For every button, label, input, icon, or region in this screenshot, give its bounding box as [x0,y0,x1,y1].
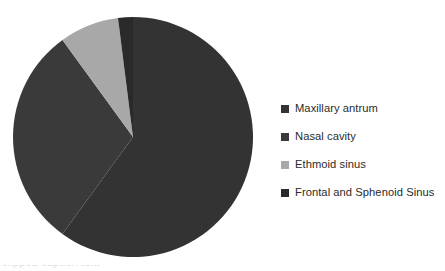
legend-item-ethmoid-sinus[interactable]: Ethmoid sinus [281,154,445,175]
legend-item-label: Nasal cavity [295,130,356,143]
legend-item-label: Maxillary antrum [295,102,378,115]
pie-chart-plot-area [0,0,272,271]
legend-item-label: Ethmoid sinus [295,158,366,171]
legend-square-icon [281,133,289,141]
legend-item-label: Frontal and Sphenoid Sinus [295,186,434,199]
legend-square-icon [281,161,289,169]
legend-square-icon [281,189,289,197]
pie-slice-group [13,17,253,257]
legend-item-frontal-and-sphenoid-sinus[interactable]: Frontal and Sphenoid Sinus [281,182,445,203]
legend-square-icon [281,105,289,113]
pie-chart-figure: Maxillary antrum Nasal cavity Ethmoid si… [0,0,445,271]
clipped-caption-text: clipped caption text [2,265,100,268]
clipped-caption-strip: clipped caption text [0,265,445,271]
legend-item-maxillary-antrum[interactable]: Maxillary antrum [281,98,445,119]
pie-chart-svg [0,0,272,271]
legend-item-nasal-cavity[interactable]: Nasal cavity [281,126,445,147]
chart-legend: Maxillary antrum Nasal cavity Ethmoid si… [281,98,445,203]
